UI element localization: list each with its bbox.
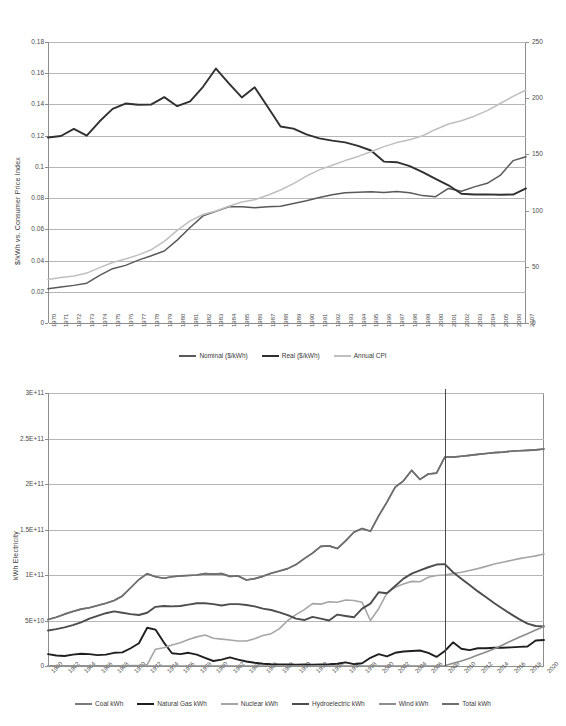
y2-axis-tick-label: 100 (532, 207, 543, 214)
y-axis-tick-mark (45, 323, 48, 324)
y2-axis-tick-mark (526, 154, 529, 155)
y-axis-tick-label: 0.04 (10, 257, 44, 264)
legend-label: Total kWh (462, 700, 491, 707)
series-line-annual-cpi (48, 90, 526, 279)
x-axis-tick-label: 2020 (546, 661, 560, 675)
legend-label: Nuclear kWh (241, 700, 278, 707)
legend-label: Coal kWh (95, 700, 123, 707)
top-plot-series-layer (48, 42, 526, 323)
bottom-chart-legend: Coal kWhNatural Gas kWhNuclear kWhHydroe… (0, 700, 566, 707)
series-line-real-kwh (48, 69, 526, 195)
bot-plot-series-layer (48, 393, 544, 666)
top-chart-legend: Nominal ($/kWh)Real ($/kWh)Annual CPI (0, 352, 566, 359)
electricity-price-chart: $/kWh vs. Consumer Price Index Nominal (… (0, 0, 566, 375)
legend-swatch-icon (179, 355, 196, 357)
y-axis-tick-label: 0.16 (10, 69, 44, 76)
legend-swatch-icon (379, 703, 396, 705)
legend-item-total-kwh[interactable]: Total kWh (442, 700, 491, 707)
series-line-coal-kwh (48, 449, 544, 620)
y-axis-tick-label: 0 (10, 662, 44, 669)
x-axis-tick-label: 2007 (529, 314, 535, 327)
y-axis-tick-label: 2.5E+11 (10, 435, 44, 442)
y-axis-tick-label: 0.06 (10, 225, 44, 232)
legend-label: Nominal ($/kWh) (199, 352, 247, 359)
legend-item-coal-kwh[interactable]: Coal kWh (75, 700, 123, 707)
series-line-wind-kwh (48, 626, 544, 666)
y-axis-tick-label: 0 (10, 319, 44, 326)
y-axis-tick-label: 1.5E+11 (10, 526, 44, 533)
forecast-divider-line (445, 389, 446, 666)
series-line-total-kwh (48, 449, 544, 620)
figure-container: $/kWh vs. Consumer Price Index Nominal (… (0, 0, 566, 726)
y2-axis-tick-label: 150 (532, 150, 543, 157)
y-axis-tick-label: 0.18 (10, 38, 44, 45)
legend-swatch-icon (262, 355, 279, 357)
y-axis-tick-label: 5E+10 (10, 617, 44, 624)
legend-label: Real ($/kWh) (282, 352, 320, 359)
y2-axis-tick-mark (526, 267, 529, 268)
series-line-nominal-kwh (48, 157, 526, 289)
legend-item-nuclear-kwh[interactable]: Nuclear kWh (221, 700, 278, 707)
y-axis-tick-label: 1E+11 (10, 571, 44, 578)
series-line-nuclear-kwh (48, 554, 544, 666)
y-axis-tick-label: 0.08 (10, 194, 44, 201)
legend-label: Hydroelectric kWh (312, 700, 365, 707)
legend-label: Annual CPI (354, 352, 387, 359)
y2-axis-tick-mark (526, 98, 529, 99)
legend-item-annual-cpi[interactable]: Annual CPI (334, 352, 387, 359)
legend-swatch-icon (137, 703, 154, 705)
legend-item-nominal-kwh[interactable]: Nominal ($/kWh) (179, 352, 247, 359)
electricity-generation-chart: kWh Electricity Coal kWhNatural Gas kWhN… (0, 375, 566, 726)
legend-swatch-icon (442, 703, 459, 705)
top-chart-y-axis-title: $/kWh vs. Consumer Price Index (14, 157, 21, 265)
y2-axis-tick-label: 200 (532, 94, 543, 101)
y-axis-tick-label: 3E+11 (10, 389, 44, 396)
y2-axis-tick-label: 50 (532, 263, 539, 270)
legend-item-natural-gas-kwh[interactable]: Natural Gas kWh (137, 700, 207, 707)
legend-item-wind-kwh[interactable]: Wind kWh (379, 700, 429, 707)
legend-item-real-kwh[interactable]: Real ($/kWh) (262, 352, 320, 359)
legend-label: Wind kWh (399, 700, 429, 707)
y-axis-tick-label: 0.02 (10, 288, 44, 295)
legend-swatch-icon (334, 355, 351, 357)
y2-axis-tick-mark (526, 42, 529, 43)
y-axis-tick-label: 0.12 (10, 132, 44, 139)
legend-swatch-icon (75, 703, 92, 705)
y-axis-tick-label: 0.14 (10, 100, 44, 107)
legend-label: Natural Gas kWh (157, 700, 207, 707)
legend-swatch-icon (221, 703, 238, 705)
legend-swatch-icon (292, 703, 309, 705)
y-axis-tick-label: 2E+11 (10, 480, 44, 487)
series-line-hydroelectric-kwh (48, 564, 544, 630)
y-axis-tick-label: 0.1 (10, 163, 44, 170)
legend-item-hydroelectric-kwh[interactable]: Hydroelectric kWh (292, 700, 365, 707)
y2-axis-tick-label: 250 (532, 38, 543, 45)
y2-axis-tick-mark (526, 211, 529, 212)
